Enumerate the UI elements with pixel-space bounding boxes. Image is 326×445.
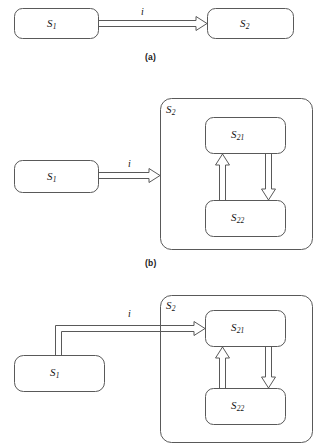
state-label-s2-b: S2 [166,103,175,115]
panel-b-graphics [15,99,313,250]
state-label-s22-b: S22 [231,211,244,223]
state-label-s1-a: S1 [47,17,56,29]
state-box-s22-b [206,201,286,237]
caption-b: (b) [145,258,156,268]
transition-arrow-b-external [99,169,161,183]
composite-state-box-s2-c [161,296,313,443]
composite-state-box-s2-b [161,99,313,250]
statechart-figure: S1 S2 i (a) S1 S2 S21 S22 i (b) S1 S2 S2… [0,0,326,445]
transition-arrow-c-down [262,347,276,389]
transition-arrow-a [99,17,208,31]
state-box-s22-c [206,389,286,425]
transition-arrow-b-down [262,154,276,201]
transition-arrow-c-external [56,322,206,356]
transition-arrow-c-up [216,347,230,389]
state-box-s21-c [206,311,286,347]
state-label-s21-c: S21 [231,321,244,333]
event-label-i-a: i [141,6,144,17]
caption-a: (a) [145,52,156,62]
state-label-s1-c: S1 [50,366,59,378]
state-box-s2-a [208,9,294,39]
state-label-s22-c: S22 [231,399,244,411]
transition-arrow-b-up [216,154,230,201]
diagram-canvas [0,0,326,445]
state-label-s2-a: S2 [240,17,249,29]
state-label-s2-c: S2 [166,299,175,311]
state-box-s21-b [206,118,286,154]
state-label-s1-b: S1 [47,170,56,182]
event-label-i-c: i [128,308,131,319]
state-label-s21-b: S21 [231,128,244,140]
event-label-i-b: i [128,158,131,169]
